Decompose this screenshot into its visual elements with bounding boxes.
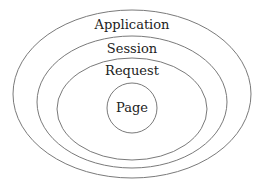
request-scope-label: Request xyxy=(105,63,160,78)
application-scope-label: Application xyxy=(94,17,171,32)
session-scope-label: Session xyxy=(107,41,158,56)
page-scope-label: Page xyxy=(116,100,148,115)
application-scope-ellipse xyxy=(13,10,251,178)
scope-diagram: Application Session Request Page xyxy=(0,0,265,187)
